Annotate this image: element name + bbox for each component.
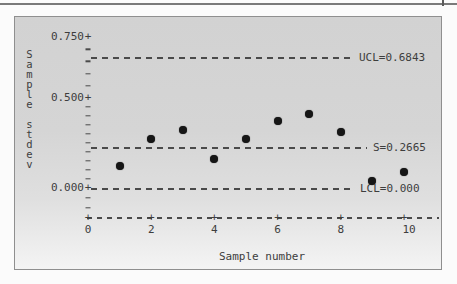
data-point-sample-9 bbox=[368, 177, 376, 185]
y-minor-tick bbox=[86, 124, 91, 125]
x-tick-plus: + bbox=[148, 213, 155, 223]
y-minor-tick bbox=[86, 178, 91, 179]
page-header-tick bbox=[442, 0, 444, 6]
ref-line-label-s: S=0.2665 bbox=[373, 143, 426, 153]
x-tick-plus: + bbox=[274, 213, 281, 223]
x-tick-label: 8 bbox=[337, 225, 344, 235]
x-tick-plus: + bbox=[211, 213, 218, 223]
scanned-page: S a m p l e s t d e v Sample number 0.75… bbox=[0, 0, 457, 284]
x-tick-plus: + bbox=[337, 213, 344, 223]
data-point-sample-7 bbox=[305, 110, 313, 118]
data-point-sample-3 bbox=[179, 126, 187, 134]
x-axis-line bbox=[87, 217, 439, 219]
y-minor-tick bbox=[86, 61, 91, 62]
x-tick-label: 0 bbox=[85, 225, 92, 235]
y-minor-tick bbox=[86, 197, 91, 198]
y-minor-tick bbox=[86, 160, 91, 161]
y-minor-tick bbox=[86, 133, 91, 134]
x-tick-label: 4 bbox=[211, 225, 218, 235]
y-tick-label: 0.000 bbox=[43, 183, 84, 193]
y-tick-plus: + bbox=[85, 93, 92, 103]
ref-line-label-ucl: UCL=0.6843 bbox=[359, 53, 425, 63]
control-chart: S a m p l e s t d e v Sample number 0.75… bbox=[14, 16, 442, 270]
y-minor-tick bbox=[86, 85, 91, 86]
y-minor-tick bbox=[86, 106, 91, 107]
y-tick-label: 0.500 bbox=[43, 93, 84, 103]
x-tick-label: 2 bbox=[148, 225, 155, 235]
y-tick-label: 0.750 bbox=[43, 32, 84, 42]
x-axis-title: Sample number bbox=[219, 250, 305, 263]
x-tick-label: 6 bbox=[274, 225, 281, 235]
y-minor-tick bbox=[86, 73, 91, 74]
data-point-sample-4 bbox=[210, 155, 218, 163]
data-point-sample-8 bbox=[337, 128, 345, 136]
page-header-rule bbox=[0, 3, 457, 5]
data-point-sample-10 bbox=[400, 168, 408, 176]
y-axis-title: S a m p l e s t d e v bbox=[23, 49, 36, 169]
ref-line-s bbox=[91, 147, 367, 149]
data-point-sample-1 bbox=[116, 162, 124, 170]
ref-line-lcl bbox=[91, 188, 355, 190]
x-tick-plus: + bbox=[401, 213, 408, 223]
y-minor-tick bbox=[86, 142, 91, 143]
y-tick-plus: + bbox=[85, 32, 92, 42]
data-point-sample-2 bbox=[147, 135, 155, 143]
y-minor-tick bbox=[86, 169, 91, 170]
ref-line-label-lcl: LCL=0.000 bbox=[360, 184, 420, 194]
y-minor-tick bbox=[86, 48, 91, 49]
x-tick-label: 10 bbox=[402, 225, 415, 235]
ref-line-ucl bbox=[91, 57, 353, 59]
y-minor-tick bbox=[86, 207, 91, 208]
y-minor-tick bbox=[86, 151, 91, 152]
data-point-sample-6 bbox=[274, 117, 282, 125]
y-minor-tick bbox=[86, 115, 91, 116]
data-point-sample-5 bbox=[242, 135, 250, 143]
x-tick-plus: + bbox=[85, 213, 92, 223]
